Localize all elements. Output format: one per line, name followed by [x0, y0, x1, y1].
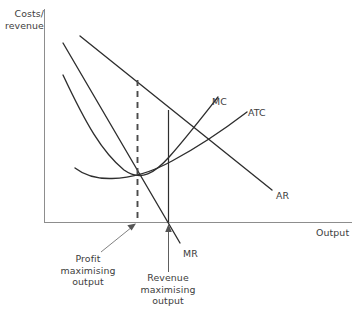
mc-curve-label: MC: [212, 96, 227, 108]
x-axis-label: Output: [316, 227, 349, 239]
ar-curve-label: AR: [276, 190, 289, 202]
revenue-maximising-output-annotation: Revenue maximising output: [113, 272, 223, 307]
economics-diagram: Costs/ revenue Output MC ATC AR MR Profi…: [0, 0, 352, 319]
mr-curve-label: MR: [183, 248, 198, 260]
profit-maximising-output-arrow: [101, 224, 136, 253]
mc-curve: [63, 75, 218, 175]
mr-curve: [63, 43, 180, 243]
revenue-maximising-output-arrow: [165, 224, 172, 272]
y-axis-label: Costs/ revenue: [5, 8, 44, 31]
ar-curve: [80, 36, 272, 190]
atc-curve-label: ATC: [248, 107, 266, 119]
axes-group: [44, 9, 352, 223]
